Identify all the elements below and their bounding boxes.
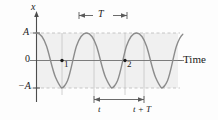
shm-graph-figure: x A 0 −A Time T 1 2 t t + T <box>0 0 218 120</box>
time-interval-bracket <box>94 96 144 103</box>
y-tick-label-amplitude-positive: A <box>23 27 29 37</box>
y-axis-label: x <box>31 2 35 12</box>
x-axis-label: Time <box>183 54 206 65</box>
point-two-label: 2 <box>127 60 132 69</box>
time-start-label: t <box>98 105 101 114</box>
y-tick-label-zero: 0 <box>25 54 30 64</box>
point-one-label: 1 <box>64 60 69 69</box>
time-end-label: t + T <box>133 105 151 114</box>
y-tick-label-amplitude-negative: −A <box>18 81 31 91</box>
period-label: T <box>98 9 104 19</box>
